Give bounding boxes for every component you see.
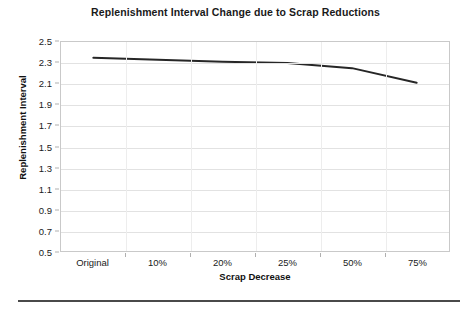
gridline — [61, 126, 449, 127]
gridline — [61, 232, 449, 233]
y-axis-tick-label: 1.5 — [39, 141, 52, 152]
y-axis-tick-label: 0.5 — [39, 247, 52, 258]
x-axis-title: Scrap Decrease — [60, 271, 450, 282]
x-axis-tick-mark — [385, 253, 386, 257]
plot-area — [60, 41, 450, 252]
x-axis-tick-label: 50% — [343, 257, 362, 268]
y-axis-tick-label: 1.7 — [39, 120, 52, 131]
x-axis-separator — [321, 42, 322, 251]
x-axis-tick-label: 25% — [278, 257, 297, 268]
footer-rule — [18, 300, 460, 302]
y-axis-tick-mark — [55, 146, 59, 147]
y-axis-tick-mark — [55, 230, 59, 231]
y-axis-tick-mark — [55, 252, 59, 253]
y-axis-tick-label: 1.1 — [39, 183, 52, 194]
x-axis-tick-mark — [190, 253, 191, 257]
y-axis-tick-label: 1.3 — [39, 162, 52, 173]
gridline — [61, 84, 449, 85]
x-axis-tick-label: 10% — [148, 257, 167, 268]
y-axis-tick-mark — [55, 104, 59, 105]
data-series-line — [93, 58, 416, 83]
gridline — [61, 190, 449, 191]
y-axis-tick-label: 0.7 — [39, 225, 52, 236]
x-axis-tick-label: Original — [76, 257, 109, 268]
chart-container: Replenishment Interval Change due to Scr… — [0, 0, 471, 314]
x-axis-tick-label: 75% — [408, 257, 427, 268]
y-axis-tick-mark — [55, 188, 59, 189]
x-axis-separator — [126, 42, 127, 251]
series-line-chart — [61, 42, 449, 251]
gridline — [61, 105, 449, 106]
y-axis-tick-mark — [55, 209, 59, 210]
y-axis-tick-mark — [55, 167, 59, 168]
gridline — [61, 169, 449, 170]
x-axis-separator — [191, 42, 192, 251]
y-axis-tick-labels: 2.52.32.11.91.71.51.31.10.90.70.5 — [0, 41, 58, 252]
x-axis-tick-labels: Original10%20%25%50%75% — [60, 253, 450, 271]
gridline — [61, 63, 449, 64]
x-axis-tick-mark — [255, 253, 256, 257]
x-axis-tick-mark — [125, 253, 126, 257]
y-axis-tick-label: 0.9 — [39, 204, 52, 215]
x-axis-tick-mark — [320, 253, 321, 257]
y-axis-tick-mark — [55, 41, 59, 42]
y-axis-tick-mark — [55, 62, 59, 63]
y-axis-tick-label: 2.5 — [39, 36, 52, 47]
gridline — [61, 211, 449, 212]
x-axis-separator — [386, 42, 387, 251]
x-axis-separator — [256, 42, 257, 251]
y-axis-tick-mark — [55, 125, 59, 126]
y-axis-tick-label: 2.3 — [39, 57, 52, 68]
chart-title: Replenishment Interval Change due to Scr… — [0, 6, 471, 18]
y-axis-tick-label: 2.1 — [39, 78, 52, 89]
y-axis-tick-mark — [55, 83, 59, 84]
x-axis-tick-label: 20% — [213, 257, 232, 268]
gridline — [61, 148, 449, 149]
y-axis-tick-label: 1.9 — [39, 99, 52, 110]
